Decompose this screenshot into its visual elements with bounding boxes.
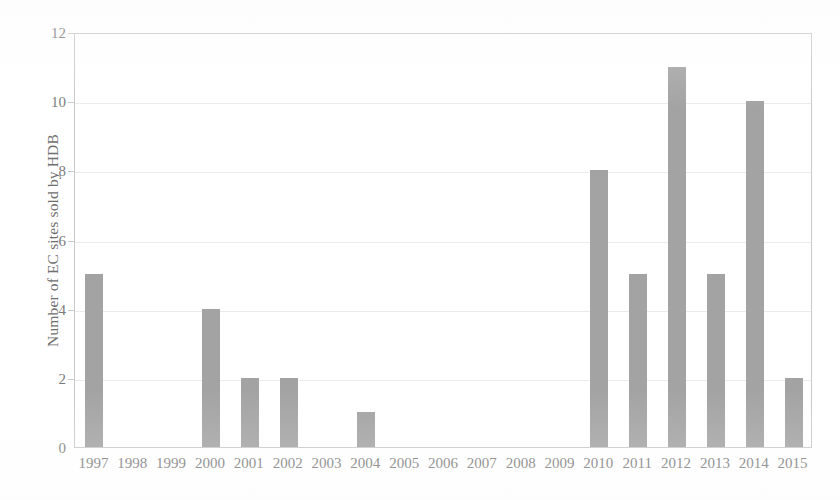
y-tick-label: 2 — [59, 371, 67, 386]
bar — [707, 274, 725, 447]
bar — [629, 274, 647, 447]
y-tick-label: 12 — [51, 26, 66, 41]
x-tick-label: 2009 — [545, 456, 575, 471]
gridline — [75, 103, 811, 104]
plot-area — [74, 33, 812, 448]
x-tick-label: 2004 — [350, 456, 380, 471]
bar — [280, 378, 298, 447]
x-tick-label: 2000 — [195, 456, 225, 471]
y-tick-label: 6 — [59, 233, 67, 248]
bar — [590, 170, 608, 447]
x-tick-label: 2006 — [428, 456, 458, 471]
bar — [85, 274, 103, 447]
x-tick-label: 2003 — [311, 456, 341, 471]
bar — [746, 101, 764, 447]
bar — [785, 378, 803, 447]
gridline — [75, 380, 811, 381]
bar — [357, 412, 375, 447]
x-tick-label: 1999 — [156, 456, 186, 471]
bar-chart-figure: Number of EC sites sold by HDB 024681012… — [0, 0, 840, 500]
x-tick-label: 2005 — [389, 456, 419, 471]
y-tick-label: 0 — [59, 441, 67, 456]
gridline — [75, 242, 811, 243]
x-tick-label: 2010 — [583, 456, 613, 471]
x-tick-label: 2014 — [739, 456, 769, 471]
bar — [202, 309, 220, 447]
x-tick-label: 2008 — [506, 456, 536, 471]
x-tick-label: 2007 — [467, 456, 497, 471]
x-tick-label: 2012 — [661, 456, 691, 471]
y-tick-label: 10 — [51, 95, 66, 110]
x-tick-label: 2011 — [622, 456, 651, 471]
bar — [241, 378, 259, 447]
x-tick-label: 2002 — [273, 456, 303, 471]
x-tick-label: 2013 — [700, 456, 730, 471]
y-tick-label: 8 — [59, 164, 67, 179]
gridline — [75, 311, 811, 312]
x-tick-label: 2001 — [234, 456, 264, 471]
x-tick-label: 1997 — [78, 456, 108, 471]
x-tick-label: 1998 — [117, 456, 147, 471]
gridline — [75, 172, 811, 173]
x-tick-label: 2015 — [778, 456, 808, 471]
bar — [668, 67, 686, 447]
y-tick-label: 4 — [59, 302, 67, 317]
